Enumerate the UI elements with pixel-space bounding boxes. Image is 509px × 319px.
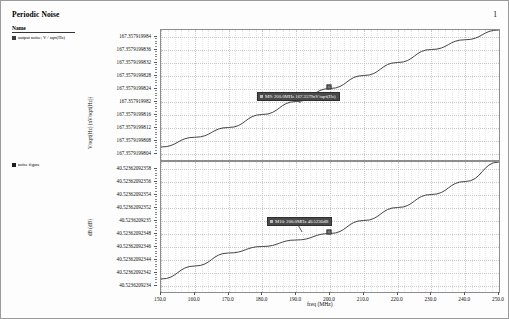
y-axis-tickmark-minor (155, 243, 157, 244)
y-axis-tick-label: 167.3579199828 (117, 72, 151, 78)
x-axis-tickmark (194, 292, 195, 295)
x-axis-tick-label: 220.0 (391, 296, 403, 302)
y-axis-tickmark-minor (155, 269, 157, 270)
y-axis-tickmark (154, 207, 157, 208)
x-axis-tick-label: 170.0 (222, 296, 234, 302)
y-axis-tickmark-minor (155, 41, 157, 42)
y-axis-ticklabels-top: 167.357919984167.3579199836167.357919983… (89, 29, 157, 159)
y-axis-tickmark-minor (155, 261, 157, 262)
y-axis-tickmark (154, 285, 157, 286)
legend-divider (12, 32, 75, 33)
y-axis-tickmark-minor (155, 134, 157, 135)
y-axis-tick-label: 167.3579199832 (117, 59, 151, 65)
y-axis-tickmark-minor (155, 201, 157, 202)
legend-bottom: noise figure (12, 162, 40, 167)
x-axis-tick-label: 250.0 (492, 296, 504, 302)
y-axis-tickmark-minor (155, 186, 157, 187)
y-axis-tickmark-minor (155, 222, 157, 223)
y-axis-tickmark-minor (155, 235, 157, 236)
y-axis-tickmark-minor (155, 137, 157, 138)
y-axis-tick-label: 40.52362092346 (117, 243, 151, 249)
legend-item-noise-figure[interactable]: noise figure (12, 162, 40, 167)
x-axis-tick-label: 210.0 (357, 296, 369, 302)
y-axis-tickmark-minor (155, 204, 157, 205)
y-axis-tickmark-minor (155, 248, 157, 249)
plot-area-bottom[interactable] (160, 161, 500, 293)
y-axis-tickmark-minor (155, 225, 157, 226)
x-axis-tickmark (498, 292, 499, 295)
y-axis-tickmark-minor (155, 178, 157, 179)
x-axis-tick-label: 160.0 (188, 296, 200, 302)
y-axis-tickmark-minor (155, 191, 157, 192)
y-axis-tickmark-minor (155, 77, 157, 78)
legend-top: Name output noise; V / sqrt(Hz) (12, 25, 75, 40)
y-axis-tickmark (154, 114, 157, 115)
y-axis-tickmark (154, 220, 157, 221)
y-axis-tick-label: 40.52362092344 (117, 256, 151, 262)
y-axis-tickmark-minor (155, 132, 157, 133)
x-axis-tickmark (464, 292, 465, 295)
y-axis-tickmark-minor (155, 230, 157, 231)
y-axis-tickmark-minor (155, 266, 157, 267)
y-axis-tickmark (154, 75, 157, 76)
legend-item-output-noise[interactable]: output noise; V / sqrt(Hz) (12, 35, 75, 40)
y-axis-tickmark-minor (155, 129, 157, 130)
marker-point-m10[interactable] (327, 230, 332, 235)
y-axis-tickmark-minor (155, 150, 157, 151)
marker-label-m9[interactable]: M9: 200.0MHz 167.3579nV/sqrt(Hz) (257, 92, 340, 101)
y-axis-tickmark (154, 140, 157, 141)
y-axis-tickmark-minor (155, 251, 157, 252)
y-axis-tickmark-minor (155, 82, 157, 83)
y-axis-tickmark-minor (155, 183, 157, 184)
y-axis-tickmark-minor (155, 51, 157, 52)
y-axis-tick-label: 167.3579199812 (117, 124, 151, 130)
y-axis-tickmark-minor (155, 95, 157, 96)
marker-swatch-icon (260, 95, 263, 98)
legend-swatch-icon (12, 163, 16, 167)
x-axis-tickmark (160, 292, 161, 295)
y-axis-tickmark-minor (155, 90, 157, 91)
page-number: 1 (493, 10, 497, 19)
y-axis-tickmark-minor (155, 56, 157, 57)
y-axis-tickmark-minor (155, 72, 157, 73)
y-axis-tickmark-minor (155, 59, 157, 60)
y-axis-tickmark-minor (155, 64, 157, 65)
y-axis-tick-label: 167.357919984 (119, 33, 151, 39)
x-axis-tickmark (261, 292, 262, 295)
y-axis-tickmark-minor (155, 142, 157, 143)
y-axis-tickmark (154, 127, 157, 128)
y-axis-tickmark-minor (155, 46, 157, 47)
legend-swatch-icon (12, 36, 16, 40)
legend-item-label: noise figure (18, 162, 40, 167)
y-axis-tickmark-minor (155, 85, 157, 86)
y-axis-tickmark-minor (155, 238, 157, 239)
y-axis-tickmark-minor (155, 175, 157, 176)
y-axis-tickmark-minor (155, 279, 157, 280)
x-axis-tick-label: 150.0 (154, 296, 166, 302)
y-axis-tickmark (154, 88, 157, 89)
y-axis-tickmark-minor (155, 274, 157, 275)
y-axis-tick-label: 40.52362092356 (117, 178, 151, 184)
marker-label-text: M10: 200.0MHz 40.5236dB (275, 219, 328, 224)
y-axis-tickmark-minor (155, 264, 157, 265)
y-axis-tick-label: 167.3579199808 (117, 137, 151, 143)
x-axis-tickmark (295, 292, 296, 295)
y-axis-tickmark-minor (155, 116, 157, 117)
y-axis-tickmark (154, 246, 157, 247)
marker-label-m10[interactable]: M10: 200.0MHz 40.5236dB (267, 217, 332, 226)
y-axis-tickmark-minor (155, 80, 157, 81)
y-axis-tick-label: 167.3579199816 (117, 111, 151, 117)
x-axis-tick-label: 180.0 (255, 296, 267, 302)
y-axis-tickmark-minor (155, 124, 157, 125)
y-axis-tickmark-minor (155, 196, 157, 197)
y-axis-tickmark-minor (155, 67, 157, 68)
x-axis-title: freq (MHz) (307, 301, 333, 307)
y-axis-tickmark-minor (155, 145, 157, 146)
y-axis-tickmark-minor (155, 217, 157, 218)
y-axis-tickmark-minor (155, 188, 157, 189)
y-axis-tickmark-minor (155, 173, 157, 174)
legend-name-header: Name (12, 25, 75, 31)
y-axis-tickmark (154, 36, 157, 37)
y-axis-tickmark-minor (155, 214, 157, 215)
marker-point-m9[interactable] (327, 85, 332, 90)
